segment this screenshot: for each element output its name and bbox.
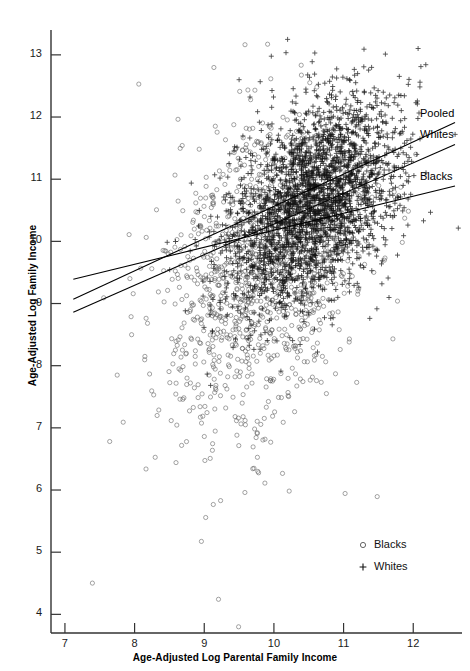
y-axis-ticks [51,55,61,614]
data-point-blacks [186,255,190,259]
data-point-whites [224,269,229,274]
data-point-blacks [144,316,148,320]
data-point-whites [248,95,253,100]
data-point-whites [405,223,410,228]
data-point-blacks [281,115,285,119]
data-point-blacks [179,233,183,237]
data-point-blacks [225,387,229,391]
data-point-blacks [347,337,351,341]
data-point-whites [228,207,233,212]
data-point-blacks [238,161,242,165]
data-point-blacks [208,333,212,337]
data-point-blacks [108,439,112,443]
data-point-whites [389,181,394,186]
data-point-blacks [220,336,224,340]
y-tick-label: 7 [20,420,42,432]
data-point-blacks [290,323,294,327]
data-point-whites [411,173,416,178]
data-point-blacks [216,597,220,601]
data-point-blacks [221,172,225,176]
data-point-blacks [240,359,244,363]
data-point-whites [316,82,321,87]
data-point-whites [367,316,372,321]
data-point-whites [313,113,318,118]
data-point-whites [456,226,461,231]
data-point-whites [378,165,383,170]
data-point-whites [258,79,263,84]
data-point-whites [318,123,323,128]
data-point-whites [310,300,315,305]
regression-line-label-whites: Whites [420,128,454,140]
data-point-blacks [162,300,166,304]
data-point-blacks [212,377,216,381]
data-point-whites [391,174,396,179]
data-point-whites [392,95,397,100]
data-point-whites [371,236,376,241]
data-point-blacks [325,281,329,285]
data-point-blacks [226,375,230,379]
data-point-blacks [228,168,232,172]
data-point-whites [347,281,352,286]
data-point-whites [247,136,252,141]
data-point-whites [239,223,244,228]
data-point-whites [418,64,423,69]
data-point-whites [372,141,377,146]
data-point-blacks [299,63,303,67]
data-point-whites [183,308,188,313]
data-point-blacks [250,372,254,376]
data-point-whites [374,306,379,311]
data-point-blacks [184,440,188,444]
data-point-blacks [237,327,241,331]
data-point-blacks [127,233,131,237]
data-point-blacks [185,382,189,386]
data-point-whites [189,181,194,186]
data-point-blacks [259,422,263,426]
data-point-blacks [377,184,381,188]
data-point-whites [380,160,385,165]
data-point-whites [208,279,213,284]
data-point-whites [390,135,395,140]
data-point-blacks [301,380,305,384]
data-point-blacks [289,285,293,289]
data-point-blacks [191,405,195,409]
data-point-blacks [199,539,203,543]
data-point-whites [406,174,411,179]
data-point-blacks [322,304,326,308]
data-point-whites [401,233,406,238]
data-point-whites [384,203,389,208]
data-point-blacks [269,440,273,444]
data-point-whites [352,67,357,72]
data-point-blacks [375,495,379,499]
data-point-blacks [245,374,249,378]
data-point-blacks [173,245,177,249]
data-point-whites [387,168,392,173]
data-point-blacks [271,414,275,418]
data-point-whites [360,245,365,250]
data-point-whites [402,192,407,197]
data-point-whites [235,211,240,216]
data-point-blacks [243,423,247,427]
data-point-whites [333,287,338,292]
data-point-blacks [181,365,185,369]
data-point-blacks [212,358,216,362]
data-point-blacks [250,177,254,181]
data-point-whites [395,103,400,108]
data-point-whites [249,163,254,168]
data-point-whites [383,113,388,118]
data-point-blacks [231,395,235,399]
data-point-blacks [256,343,260,347]
data-point-blacks [229,354,233,358]
data-point-whites [418,80,423,85]
data-point-whites [347,289,352,294]
data-point-blacks [144,467,148,471]
data-point-whites [301,124,306,129]
data-point-whites [341,111,346,116]
data-point-blacks [249,98,253,102]
y-tick-label: 6 [20,482,42,494]
data-point-whites [350,261,355,266]
data-point-whites [356,202,361,207]
data-point-whites [334,76,339,81]
data-point-blacks [305,337,309,341]
data-point-blacks [253,88,257,92]
data-point-blacks [202,204,206,208]
